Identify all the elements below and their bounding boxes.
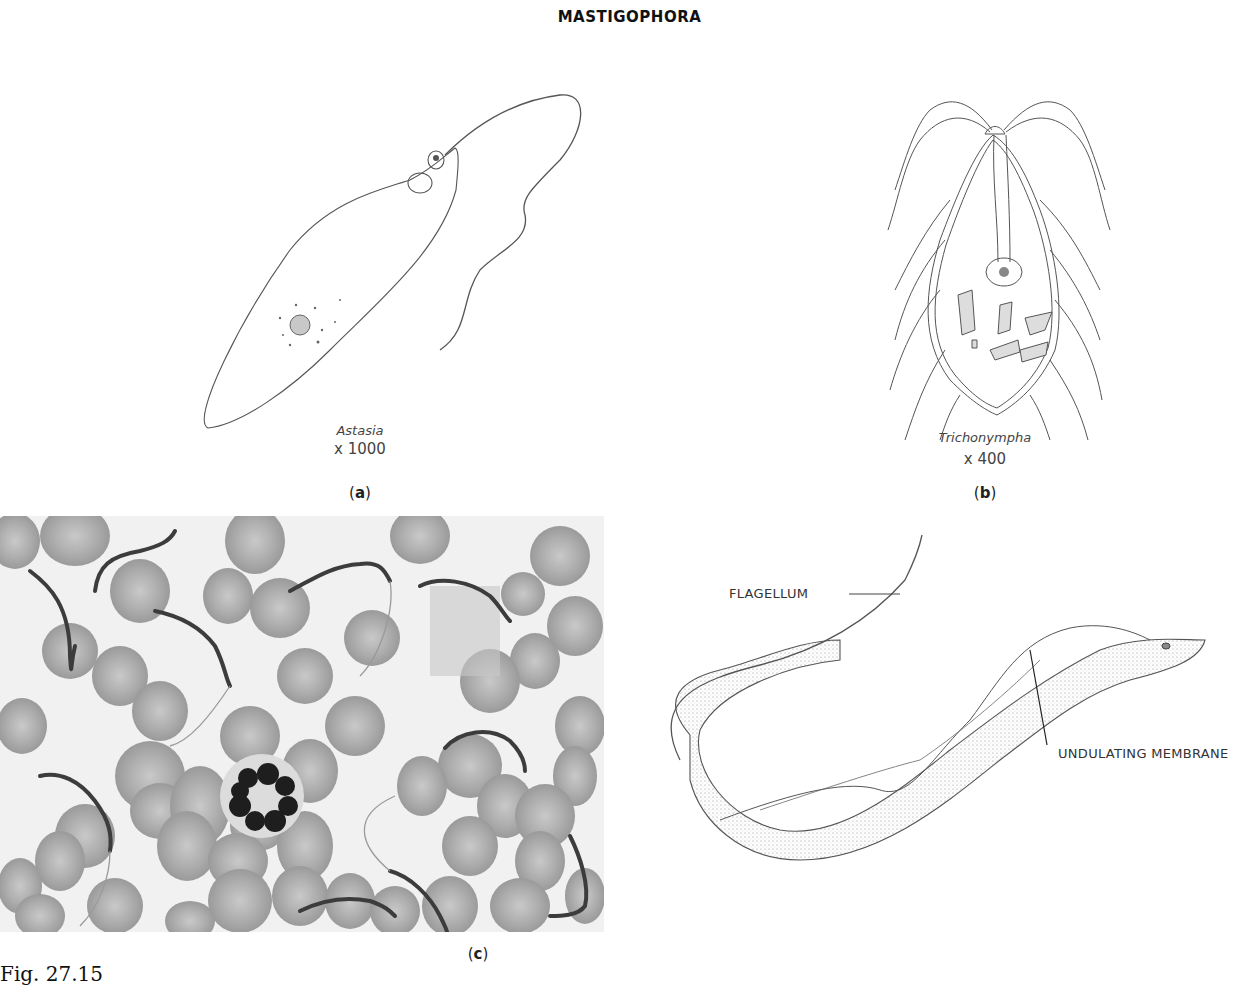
figure-number: Fig. 27.15: [0, 962, 103, 986]
panel-label-c: (c): [448, 945, 508, 963]
undulating-membrane-label: UNDULATING MEMBRANE: [1058, 746, 1229, 761]
flagellum-label: FLAGELLUM: [729, 586, 808, 601]
